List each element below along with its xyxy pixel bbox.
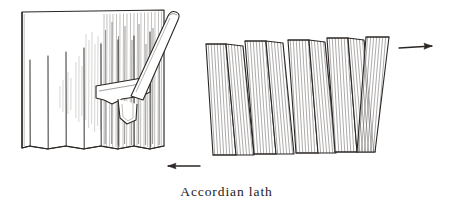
accordian-lath-figure: Accordian lath — [0, 0, 453, 212]
figure-illustration — [0, 0, 453, 212]
left-panel-board — [22, 10, 179, 149]
right-panel-accordion — [206, 33, 389, 160]
arrow-left-head — [168, 163, 176, 169]
arrow-right — [399, 43, 432, 49]
arrow-right-head — [424, 43, 432, 49]
arrow-left — [168, 163, 200, 169]
